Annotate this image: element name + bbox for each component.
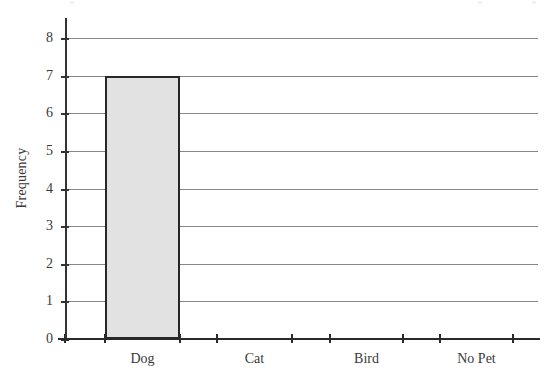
y-axis-line [65, 18, 67, 341]
y-axis-tick-label: 6 [31, 106, 53, 120]
y-axis-tick-label: 4 [31, 182, 53, 196]
y-axis-tick-label: 5 [31, 144, 53, 158]
x-axis-line [58, 338, 540, 340]
y-axis-tick-label: 8 [31, 31, 53, 45]
bar-chart: Frequency 012345678 DogCatBirdNo Pet [0, 0, 545, 380]
y-axis-tick-label: 7 [31, 69, 53, 83]
bar [105, 76, 180, 339]
y-axis-tick-label: 1 [31, 294, 53, 308]
x-axis-category-label: Bird [317, 351, 417, 367]
gridline [65, 38, 538, 39]
plot-area: 012345678 DogCatBirdNo Pet [0, 0, 545, 380]
x-axis-category-label: No Pet [427, 351, 527, 367]
y-axis-tick-label: 0 [31, 332, 53, 346]
y-axis-tick-label: 3 [31, 219, 53, 233]
x-axis-category-label: Cat [205, 351, 305, 367]
x-axis-category-label: Dog [93, 351, 193, 367]
y-axis-tick-label: 2 [31, 257, 53, 271]
